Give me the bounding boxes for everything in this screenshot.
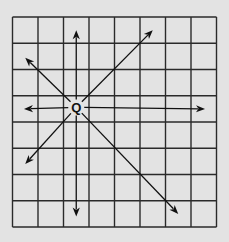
arrow-up-right bbox=[82, 30, 153, 102]
origin-label: Q bbox=[71, 100, 81, 115]
grid-diagram: Q bbox=[0, 0, 229, 242]
grid bbox=[13, 17, 217, 227]
arrow-up bbox=[73, 30, 80, 99]
arrow-left-shaft bbox=[31, 108, 68, 109]
origin-point: Q bbox=[69, 100, 83, 115]
arrow-left bbox=[24, 105, 68, 112]
arrow-down-left-shaft bbox=[30, 113, 71, 158]
arrow-down-right bbox=[82, 113, 178, 214]
arrow-down-right-shaft bbox=[82, 113, 174, 209]
grid-diagram-canvas: Q bbox=[0, 0, 229, 242]
arrow-right-shaft bbox=[84, 107, 198, 108]
arrow-right bbox=[84, 105, 205, 112]
